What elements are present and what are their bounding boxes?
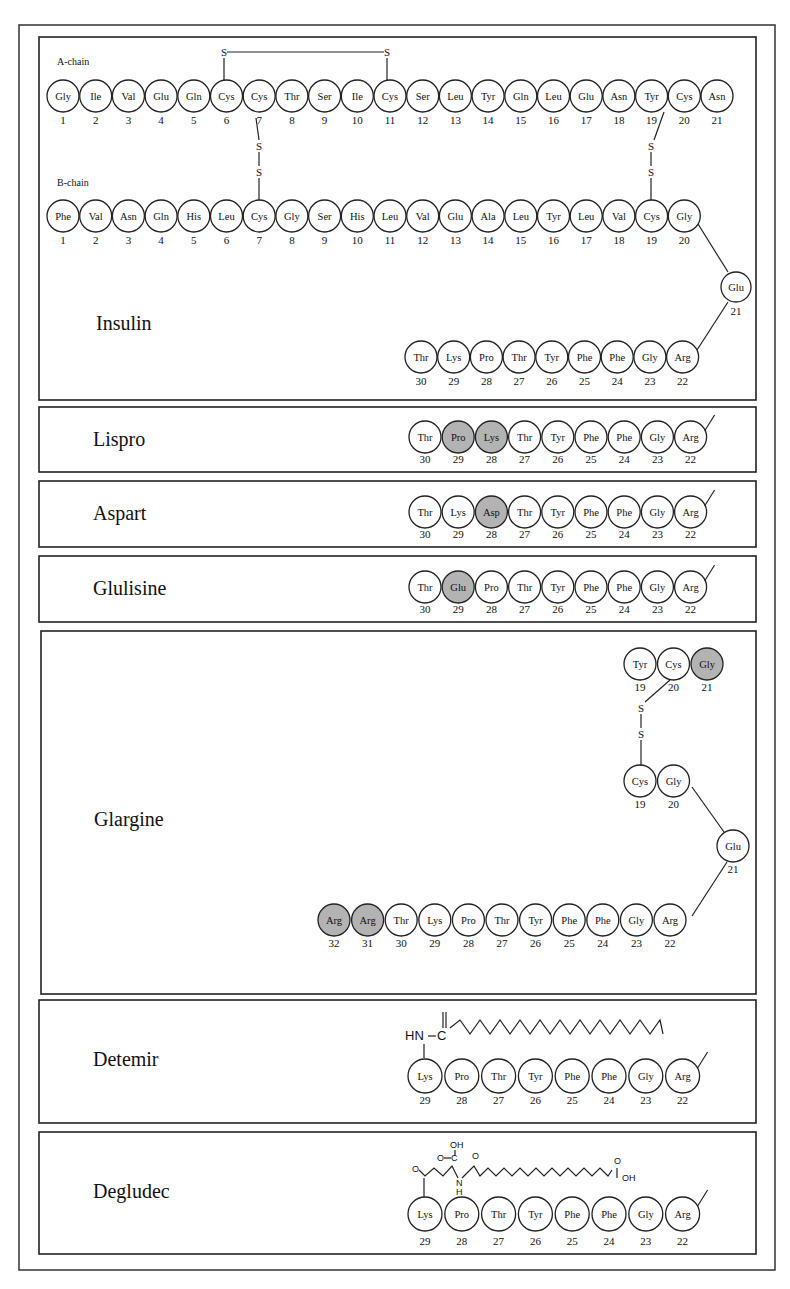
residue-number: 14: [483, 234, 495, 246]
residue-number: 30: [420, 603, 432, 615]
residue: Lys29: [442, 496, 474, 540]
residue-number: 11: [385, 234, 396, 246]
residue: Cys7: [243, 200, 275, 246]
residue-label: Pro: [455, 1209, 470, 1220]
residue: Cys19: [624, 765, 656, 810]
residue-number: 15: [515, 234, 527, 246]
residue-label: Arg: [675, 1071, 692, 1082]
residue: Arg31: [352, 904, 384, 949]
residue-number: 23: [652, 528, 664, 540]
residue-label: Ile: [352, 91, 363, 102]
residue-label: Gly: [642, 352, 659, 363]
residue-label: Thr: [417, 432, 433, 443]
residue-number: 9: [322, 114, 328, 126]
residue: Leu6: [211, 200, 243, 246]
insulin-analogs-diagram: A-chain B-chain Insulin S S S S S S Gly1…: [0, 0, 790, 1289]
residue-number: 16: [548, 234, 560, 246]
residue-number: 26: [552, 453, 564, 465]
residue-number: 7: [256, 114, 262, 126]
residue-label: Cys: [643, 211, 659, 222]
residue-number: 25: [579, 375, 591, 387]
residue-label: Phe: [564, 1209, 580, 1220]
residue-label: Thr: [417, 507, 433, 518]
residue: Gly21: [691, 648, 723, 693]
residue: Lys29: [438, 341, 470, 387]
svg-text:H: H: [456, 1187, 463, 1197]
glulisine-panel: Glulisine Thr30Glu29Pro28Thr27Tyr26Phe25…: [39, 556, 756, 622]
residue-number: 22: [685, 603, 696, 615]
residue-label: Phe: [583, 582, 599, 593]
residue-label: Leu: [382, 211, 399, 222]
residue-number: 12: [417, 114, 428, 126]
residue-number: 25: [586, 528, 598, 540]
residue-number: 30: [396, 937, 408, 949]
residue: Pro28: [470, 341, 502, 387]
residue-label: Tyr: [551, 582, 566, 593]
residue: Tyr14: [472, 80, 504, 126]
residue-number: 29: [453, 528, 465, 540]
residue: Gln4: [145, 200, 177, 246]
residue-number: 27: [514, 375, 526, 387]
residue-label: Asn: [120, 211, 138, 222]
residue-label: His: [187, 211, 202, 222]
residue-number: 24: [604, 1094, 616, 1106]
residue: Thr27: [486, 904, 518, 949]
residue-number: 10: [352, 234, 364, 246]
residue: Phe24: [601, 341, 633, 387]
residue-label: Asp: [483, 507, 500, 518]
residue-label: Thr: [494, 915, 510, 926]
residue-label: Phe: [616, 582, 632, 593]
lispro-panel: Lispro Thr30Pro29Lys28Thr27Tyr26Phe25Phe…: [39, 407, 756, 472]
residue-number: 20: [668, 798, 680, 810]
residue-label: Cys: [665, 659, 681, 670]
residue-number: 23: [631, 937, 643, 949]
residue-number: 28: [486, 528, 498, 540]
residue: Leu15: [505, 200, 537, 246]
residue-label: Ile: [90, 91, 101, 102]
residue-label: Tyr: [528, 1071, 543, 1082]
residue-number: 27: [519, 603, 531, 615]
residue-label: Leu: [447, 91, 464, 102]
residue-label: Glu: [578, 91, 595, 102]
residue: Gly23: [641, 496, 673, 540]
residue-label: Phe: [609, 352, 625, 363]
residue: Thr30: [409, 496, 441, 540]
residue: Cys20: [668, 80, 700, 126]
residue-number: 24: [597, 937, 609, 949]
residue-label: Pro: [455, 1071, 470, 1082]
residue-number: 28: [486, 603, 498, 615]
residue-label: Val: [416, 211, 430, 222]
residue-label: Phe: [595, 915, 611, 926]
residue-number: 26: [530, 937, 542, 949]
degludec-title: Degludec: [93, 1180, 170, 1203]
residue-label: Lys: [446, 352, 461, 363]
residue-label: Arg: [675, 1209, 692, 1220]
detemir-c: C: [437, 1028, 446, 1043]
residue-number: 32: [329, 937, 340, 949]
residue-number: 15: [515, 114, 527, 126]
residue-number: 20: [679, 234, 691, 246]
residue: Thr27: [503, 341, 535, 387]
residue-label: Glu: [448, 211, 465, 222]
residue-number: 28: [481, 375, 493, 387]
residue-number: 13: [450, 114, 462, 126]
residue-label: Ser: [318, 211, 333, 222]
residue: Phe25: [555, 1197, 589, 1247]
residue-label: Leu: [513, 211, 530, 222]
residue-label: Glu: [450, 582, 467, 593]
residue-number: 6: [224, 234, 230, 246]
residue: Gly20: [668, 200, 700, 246]
residue-label: Tyr: [644, 91, 659, 102]
residue-label: Cys: [251, 91, 267, 102]
disulfide-s: S: [221, 46, 227, 58]
residue: Tyr26: [518, 1197, 552, 1247]
residue: Cys7: [243, 80, 275, 126]
residue: Thr30: [405, 341, 437, 387]
residue-number: 28: [456, 1094, 468, 1106]
residue-label: Pro: [451, 432, 466, 443]
svg-text:OH: OH: [622, 1173, 636, 1183]
residue: Gly23: [629, 1197, 663, 1247]
residue: Tyr26: [542, 421, 574, 465]
residue-number: 20: [679, 114, 691, 126]
residue-number: 2: [93, 234, 99, 246]
